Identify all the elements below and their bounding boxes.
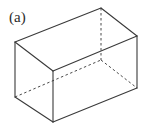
bottom-back-left-dashed-edge <box>15 60 101 97</box>
panel-label: (a) <box>9 10 26 25</box>
top-front-left-edge <box>15 42 53 71</box>
top-right-slant-edge <box>101 8 137 36</box>
figure-panel: (a) <box>0 0 150 129</box>
visible-edges-group <box>15 8 137 122</box>
bottom-front-right-edge <box>53 88 137 122</box>
bottom-back-right-dashed-edge <box>101 60 137 88</box>
bottom-front-left-edge <box>15 97 53 122</box>
top-front-right-edge <box>53 36 137 71</box>
top-left-slant-edge <box>15 8 101 42</box>
